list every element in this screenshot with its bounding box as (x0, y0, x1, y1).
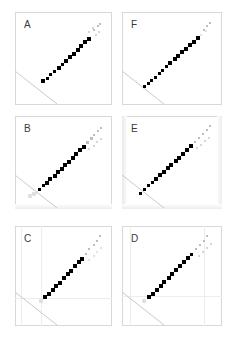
panel-label-c: C (24, 234, 31, 244)
data-point (45, 181, 49, 185)
data-point (200, 34, 202, 36)
data-point (58, 281, 62, 285)
panel-label-b: B (24, 124, 31, 134)
panel-b[interactable]: B (15, 116, 112, 209)
data-point (53, 174, 57, 178)
data-point (178, 264, 182, 268)
data-point (161, 69, 164, 72)
corner-diagonal-line (122, 292, 166, 326)
data-point (43, 295, 47, 299)
data-point (203, 240, 205, 242)
panel-e[interactable]: E (122, 116, 222, 209)
data-point (154, 76, 157, 79)
data-point (202, 133, 204, 135)
right-shading-band (217, 116, 222, 209)
data-point (206, 235, 208, 237)
data-point (41, 79, 45, 83)
data-point (139, 192, 142, 195)
data-point (92, 27, 94, 29)
data-point (74, 152, 78, 156)
data-point (90, 137, 93, 140)
data-point (80, 257, 84, 261)
data-point (143, 188, 146, 191)
data-point (208, 137, 210, 139)
data-point (170, 272, 174, 276)
data-point (47, 292, 51, 296)
data-point (85, 253, 87, 255)
data-point (87, 37, 91, 41)
data-point (96, 240, 98, 242)
data-point (93, 134, 95, 136)
panel-a[interactable]: A (15, 12, 112, 105)
data-point (190, 253, 193, 256)
data-point (199, 244, 201, 246)
data-point (61, 63, 64, 66)
data-point (198, 255, 200, 257)
data-point (88, 148, 90, 150)
data-point (168, 61, 172, 65)
data-point (39, 299, 43, 303)
data-point (100, 127, 102, 129)
panel-d[interactable]: D (122, 226, 222, 326)
data-point (73, 264, 77, 268)
data-point (205, 30, 207, 32)
panel-label-f: F (131, 20, 137, 30)
data-point (93, 255, 95, 257)
data-point (49, 73, 52, 76)
data-point (88, 248, 90, 250)
data-point (165, 65, 168, 68)
data-point (151, 181, 154, 184)
data-point (184, 47, 188, 51)
data-point (42, 184, 45, 187)
data-point (174, 268, 178, 272)
data-point (142, 299, 146, 303)
data-point (99, 235, 101, 237)
data-point (64, 59, 68, 63)
data-point (210, 243, 212, 245)
data-point (100, 138, 102, 140)
data-point (194, 141, 196, 143)
data-point (57, 66, 61, 70)
data-point (38, 188, 41, 191)
data-point (176, 54, 180, 58)
data-point (162, 170, 166, 174)
data-point (95, 34, 97, 36)
data-point (79, 44, 83, 48)
data-point (195, 248, 197, 250)
panel-label-a: A (24, 20, 31, 30)
data-point (151, 292, 155, 296)
figure-root: AFBECD (0, 0, 234, 337)
data-point (86, 141, 89, 144)
data-point (154, 177, 158, 181)
data-point (206, 247, 208, 249)
data-point (99, 23, 101, 25)
data-point (69, 269, 73, 273)
data-point (206, 25, 208, 27)
data-point (100, 247, 102, 249)
data-point (162, 280, 166, 284)
corner-diagonal-line (15, 71, 59, 105)
data-point (53, 70, 56, 73)
data-point (66, 272, 70, 276)
data-point (159, 284, 163, 288)
data-point (98, 31, 100, 33)
data-point (93, 244, 95, 246)
data-point (147, 82, 150, 85)
data-point (186, 256, 190, 260)
data-point (88, 259, 90, 261)
data-point (54, 284, 58, 288)
data-point (202, 251, 204, 253)
data-point (177, 156, 181, 160)
corner-diagonal-line (122, 175, 166, 209)
data-point (192, 40, 196, 44)
data-point (185, 148, 189, 152)
data-point (189, 144, 193, 148)
data-point (35, 191, 38, 194)
data-point (150, 79, 153, 82)
data-point (96, 251, 98, 253)
panel-c[interactable]: C (15, 226, 112, 326)
data-point (147, 184, 150, 187)
data-point (167, 276, 171, 280)
data-point (204, 140, 206, 142)
panel-f[interactable]: F (122, 12, 222, 105)
